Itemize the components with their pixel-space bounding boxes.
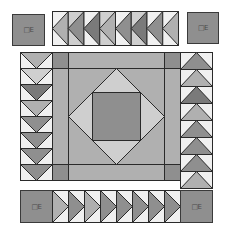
- center-block: [52, 52, 181, 181]
- corner-block-top-left: □E: [12, 14, 45, 46]
- bottom-border-flying-geese: [52, 190, 181, 223]
- top-border-flying-geese: [52, 11, 179, 46]
- corner-label: □E: [31, 203, 41, 211]
- corner-block-bottom-right: □E: [180, 190, 213, 223]
- corner-block-top-right: □E: [187, 12, 219, 44]
- corner-label: □E: [191, 203, 201, 211]
- corner-label: □E: [198, 24, 208, 32]
- corner-label: □E: [23, 26, 33, 34]
- corner-block-bottom-left: □E: [20, 190, 53, 223]
- right-border-flying-geese: [180, 52, 213, 191]
- left-border-flying-geese: [20, 52, 53, 181]
